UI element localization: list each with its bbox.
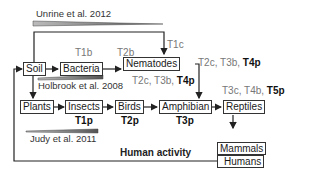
label-t2b: T2b	[117, 47, 134, 59]
label-t1b: T1b	[75, 47, 92, 59]
label-t1c: T1c	[167, 39, 184, 51]
citation-unrine: Unrine et al. 2012	[36, 8, 111, 19]
human-activity-label: Human activity	[120, 147, 191, 158]
label-t2p: T2p	[121, 115, 139, 127]
label-t1p: T1p	[75, 115, 93, 127]
node-nematodes: Nematodes	[123, 57, 180, 71]
label-rep-gray: T3c, T4b,	[222, 85, 264, 96]
unrine-wedge	[33, 21, 163, 26]
arrow-nematodes-amphibian	[195, 64, 199, 98]
citation-judy: Judy et al. 2011	[30, 133, 96, 144]
label-nem-below-gray: T2c, T3b,	[132, 75, 174, 86]
node-amphibian: Amphibian	[159, 100, 212, 114]
node-plants: Plants	[20, 100, 54, 114]
label-t3p: T3p	[176, 115, 194, 127]
node-birds: Birds	[115, 100, 144, 114]
label-nematodes-below: T2c, T3b, T4p	[132, 75, 195, 87]
label-nem-right-bold: T4p	[243, 57, 261, 68]
label-nematodes-right: T2c, T3b, T4p	[198, 57, 261, 69]
node-soil: Soil	[23, 62, 46, 76]
citation-holbrook: Holbrook et al. 2008	[38, 80, 123, 91]
node-reptiles: Reptiles	[223, 100, 265, 114]
label-nem-right-gray: T2c, T3b,	[198, 57, 240, 68]
node-insects: Insects	[65, 100, 103, 114]
label-reptiles: T3c, T4b, T5p	[222, 85, 285, 97]
node-bacteria: Bacteria	[60, 62, 103, 76]
node-mammals: Mammals	[217, 142, 266, 155]
node-humans: Humans	[217, 155, 264, 168]
label-nem-below-bold: T4p	[177, 75, 195, 86]
label-rep-bold: T5p	[267, 85, 285, 96]
